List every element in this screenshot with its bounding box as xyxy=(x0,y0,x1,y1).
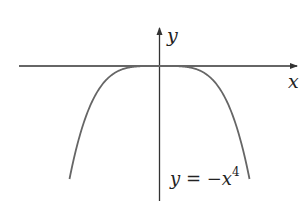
equation-var: y xyxy=(170,168,180,189)
x-axis-label: x xyxy=(288,72,299,91)
equation-x: x xyxy=(222,168,232,189)
y-axis-label: y xyxy=(167,26,178,45)
equation-exponent: 4 xyxy=(232,165,240,179)
equation-label: y = −x4 xyxy=(170,168,240,188)
graph-canvas xyxy=(0,0,308,214)
equation-equals: = − xyxy=(180,168,222,189)
